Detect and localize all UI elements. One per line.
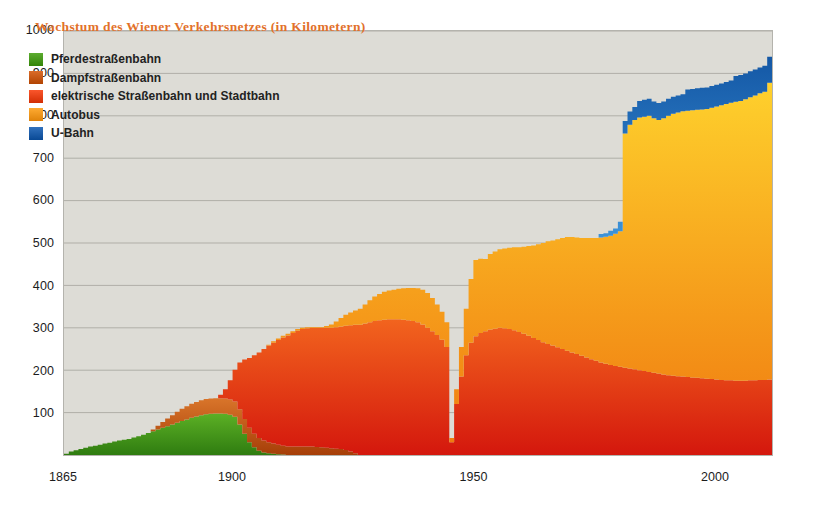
legend-label: elektrische Straßenbahn und Stadtbahn — [51, 89, 280, 103]
x-axis-tick-label: 1950 — [459, 470, 487, 484]
y-axis-tick-label: 100 — [0, 406, 54, 420]
legend-item: Autobus — [29, 106, 280, 125]
y-axis-tick-label: 300 — [0, 321, 54, 335]
y-axis-tick-label: 500 — [0, 236, 54, 250]
legend-label: Dampfstraßenbahn — [51, 71, 161, 85]
x-axis-tick-label: 1865 — [49, 470, 77, 484]
legend-item: Dampfstraßenbahn — [29, 69, 280, 88]
x-axis-tick-label: 2000 — [701, 470, 729, 484]
legend-swatch-icon — [29, 108, 43, 121]
chart-title: Wachstum des Wiener Verkehrsnetzes (in K… — [35, 19, 366, 35]
x-axis-tick-label: 1900 — [218, 470, 246, 484]
legend-item: elektrische Straßenbahn und Stadtbahn — [29, 87, 280, 106]
legend-swatch-icon — [29, 53, 43, 66]
legend-item: U-Bahn — [29, 124, 280, 143]
legend-label: Pferdestraßenbahn — [51, 52, 161, 66]
legend-label: U-Bahn — [51, 126, 94, 140]
chart-figure: 1000900800700600500400300200100 18651900… — [0, 0, 817, 514]
legend-swatch-icon — [29, 90, 43, 103]
legend-swatch-icon — [29, 127, 43, 140]
chart-legend: PferdestraßenbahnDampfstraßenbahnelektri… — [29, 50, 280, 143]
y-axis-tick-label: 700 — [0, 151, 54, 165]
y-axis-tick-label: 600 — [0, 193, 54, 207]
legend-label: Autobus — [51, 108, 100, 122]
y-axis-tick-label: 400 — [0, 279, 54, 293]
legend-item: Pferdestraßenbahn — [29, 50, 280, 69]
legend-swatch-icon — [29, 71, 43, 84]
y-axis-tick-label: 200 — [0, 364, 54, 378]
